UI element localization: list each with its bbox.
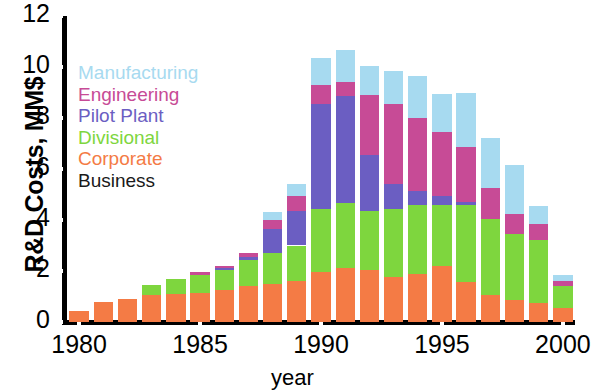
bar-segment-corporate (287, 281, 306, 322)
bar-segment-divisional (215, 270, 234, 290)
bar-segment-pilot-plant (408, 191, 427, 205)
bar-segment-manufacturing (336, 50, 355, 82)
bar-segment-pilot-plant (432, 196, 451, 205)
bar-segment-manufacturing (481, 138, 500, 188)
bar-1988 (263, 16, 282, 322)
bar-segment-corporate (336, 268, 355, 322)
bar-segment-corporate (215, 290, 234, 322)
bar-segment-corporate (239, 286, 258, 322)
bar-segment-engineering (239, 253, 258, 257)
bar-segment-divisional (142, 285, 161, 295)
bar-1995 (432, 16, 451, 322)
bar-1981 (94, 16, 113, 322)
bar-segment-engineering (287, 196, 306, 211)
bar-segment-engineering (311, 85, 330, 104)
y-tick-mark (57, 14, 63, 18)
bar-segment-pilot-plant (215, 268, 234, 269)
bar-segment-manufacturing (287, 184, 306, 195)
y-tick-label: 10 (10, 50, 50, 79)
bar-segment-divisional (384, 209, 403, 278)
bar-1997 (481, 16, 500, 322)
y-tick-mark (57, 116, 63, 120)
bar-segment-divisional (360, 211, 379, 270)
bar-1991 (336, 16, 355, 322)
bar-segment-pilot-plant (239, 257, 258, 260)
bar-segment-engineering (529, 224, 548, 241)
x-tick-label: 1980 (34, 330, 124, 359)
bar-1996 (456, 16, 475, 322)
bar-segment-corporate (456, 282, 475, 322)
bar-1987 (239, 16, 258, 322)
bar-2000 (553, 16, 572, 322)
bar-segment-divisional (456, 205, 475, 283)
bar-segment-corporate (529, 303, 548, 322)
bar-segment-engineering (481, 188, 500, 219)
y-tick-mark (57, 218, 63, 222)
bar-segment-manufacturing (384, 71, 403, 104)
bar-1989 (287, 16, 306, 322)
bar-segment-corporate (190, 293, 209, 322)
bar-segment-manufacturing (456, 93, 475, 148)
bar-segment-corporate (384, 277, 403, 322)
bar-segment-engineering (215, 266, 234, 269)
bar-segment-corporate (408, 274, 427, 322)
bar-segment-manufacturing (432, 94, 451, 132)
bar-segment-manufacturing (360, 66, 379, 95)
bar-segment-engineering (384, 104, 403, 184)
y-tick-label: 12 (10, 0, 50, 28)
bar-segment-corporate (69, 311, 88, 322)
bar-segment-divisional (481, 219, 500, 296)
bar-segment-divisional (336, 203, 355, 268)
bar-segment-engineering (263, 220, 282, 229)
bar-segment-pilot-plant (456, 202, 475, 205)
bar-segment-corporate (166, 294, 185, 322)
bar-segment-divisional (529, 240, 548, 302)
bar-segment-pilot-plant (311, 104, 330, 209)
bar-segment-corporate (142, 295, 161, 322)
bar-segment-divisional (287, 246, 306, 282)
bar-segment-corporate (481, 295, 500, 322)
bar-segment-manufacturing (553, 275, 572, 281)
bar-segment-engineering (456, 147, 475, 202)
y-tick-mark (57, 167, 63, 171)
bar-segment-engineering (190, 272, 209, 275)
bar-segment-pilot-plant (287, 211, 306, 245)
y-tick-label: 8 (10, 101, 50, 130)
bar-segment-pilot-plant (360, 155, 379, 211)
bar-1998 (505, 16, 524, 322)
bar-1985 (190, 16, 209, 322)
y-tick-label: 2 (10, 254, 50, 283)
bar-segment-corporate (311, 272, 330, 322)
bar-segment-manufacturing (408, 76, 427, 118)
bar-segment-pilot-plant (336, 96, 355, 203)
bar-1992 (360, 16, 379, 322)
bar-segment-corporate (263, 284, 282, 322)
bar-segment-corporate (94, 302, 113, 322)
x-axis-label: year (0, 365, 585, 391)
bar-segment-engineering (408, 118, 427, 191)
y-tick-mark (57, 269, 63, 273)
bar-segment-manufacturing (311, 58, 330, 85)
bar-segment-divisional (408, 205, 427, 274)
bar-segment-engineering (432, 132, 451, 196)
y-tick-mark (57, 320, 63, 324)
bar-segment-manufacturing (505, 165, 524, 213)
bar-segment-divisional (166, 279, 185, 294)
x-tick-label: 2000 (518, 330, 595, 359)
bar-segment-engineering (505, 214, 524, 234)
bar-1984 (166, 16, 185, 322)
y-tick-label: 6 (10, 152, 50, 181)
bar-segment-corporate (505, 300, 524, 322)
bar-segment-corporate (360, 270, 379, 322)
bar-segment-corporate (118, 299, 137, 322)
bar-segment-engineering (553, 281, 572, 286)
bar-segment-corporate (432, 266, 451, 322)
bar-1980 (69, 16, 88, 322)
bar-segment-corporate (553, 308, 572, 322)
plot-area (67, 16, 575, 322)
y-tick-mark (57, 65, 63, 69)
bar-1982 (118, 16, 137, 322)
bar-1994 (408, 16, 427, 322)
bar-segment-engineering (360, 95, 379, 155)
